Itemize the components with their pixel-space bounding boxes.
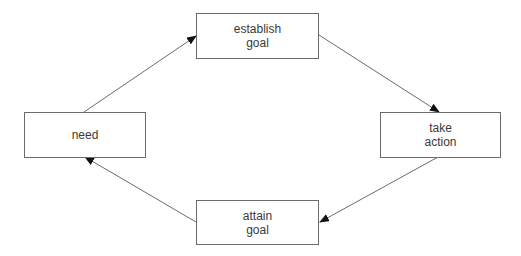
- node-take-action-line-1: take: [429, 121, 452, 135]
- node-need-label: need: [72, 128, 99, 142]
- node-take-action-line-2: action: [424, 135, 456, 149]
- node-establish-goal-line-1: establish: [234, 22, 281, 36]
- node-attain-goal-line-1: attain: [243, 209, 272, 223]
- node-attain-goal-line-2: goal: [246, 223, 269, 237]
- arrow-take-action-to-attain-goal: [320, 157, 438, 222]
- node-need: need: [24, 112, 146, 158]
- node-establish-goal-line-2: goal: [246, 36, 269, 50]
- arrow-need-to-establish-goal: [84, 36, 196, 112]
- arrow-establish-goal-to-take-action: [319, 35, 439, 112]
- node-take-action: take action: [380, 112, 501, 158]
- arrow-attain-goal-to-need: [85, 157, 196, 222]
- node-establish-goal: establish goal: [196, 13, 319, 59]
- node-attain-goal: attain goal: [196, 200, 319, 245]
